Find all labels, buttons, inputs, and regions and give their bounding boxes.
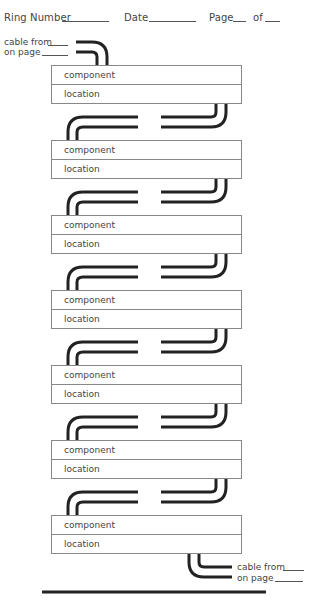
location-field[interactable]: location [52, 235, 241, 254]
bottom-on-page-label: on page [237, 573, 274, 583]
component-field[interactable]: component [52, 216, 241, 235]
component-field[interactable]: component [52, 516, 241, 535]
location-field[interactable]: location [52, 85, 241, 104]
component-box-2: component location [51, 140, 242, 179]
component-field[interactable]: component [52, 441, 241, 460]
bottom-cable-from-label: cable from [237, 562, 285, 572]
location-field[interactable]: location [52, 460, 241, 479]
location-field[interactable]: location [52, 310, 241, 329]
component-box-7: component location [51, 515, 242, 554]
component-box-6: component location [51, 440, 242, 479]
component-box-1: component location [51, 65, 242, 104]
component-field[interactable]: component [52, 66, 241, 85]
location-field[interactable]: location [52, 385, 241, 404]
component-box-5: component location [51, 365, 242, 404]
component-box-4: component location [51, 290, 242, 329]
bottom-cable-from-field[interactable] [283, 570, 304, 571]
component-field[interactable]: component [52, 366, 241, 385]
bottom-on-page-field[interactable] [275, 581, 303, 582]
location-field[interactable]: location [52, 160, 241, 179]
component-box-3: component location [51, 215, 242, 254]
location-field[interactable]: location [52, 535, 241, 554]
component-field[interactable]: component [52, 291, 241, 310]
component-field[interactable]: component [52, 141, 241, 160]
